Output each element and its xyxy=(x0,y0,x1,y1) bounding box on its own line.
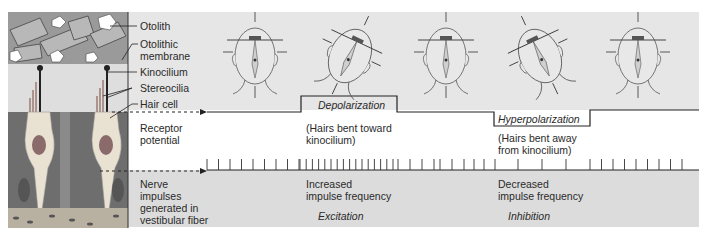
receptor-arrowhead-icon xyxy=(200,109,207,115)
decreased-frequency-label: Decreased impulse frequency xyxy=(498,178,583,202)
head-figure-5 xyxy=(606,12,670,98)
depolarization-title: Depolarization xyxy=(318,99,385,111)
impulse-ticks xyxy=(207,159,682,170)
head-figure-2 xyxy=(303,3,397,108)
increased-frequency-label: Increased impulse frequency xyxy=(306,178,391,202)
label-hair-cell: Hair cell xyxy=(140,98,178,110)
head-figure-1 xyxy=(223,12,287,98)
label-otolith: Otolith xyxy=(140,20,170,32)
nerve-arrowhead-icon xyxy=(200,168,207,174)
excitation-label: Excitation xyxy=(318,210,364,222)
head-figure-3 xyxy=(414,12,478,98)
hyperpolarization-note: (Hairs bent away from kinocilium) xyxy=(498,132,577,156)
hair-cell-illustration xyxy=(8,12,128,228)
hyperpolarization-title: Hyperpolarization xyxy=(498,113,580,125)
nerve-impulses-label: Nerve impulses generated in vestibular f… xyxy=(140,178,208,226)
receptor-potential-trace xyxy=(207,96,699,126)
inhibition-label: Inhibition xyxy=(508,210,550,222)
label-otolithic-membrane: Otolithic membrane xyxy=(140,38,210,62)
label-kinocilium: Kinocilium xyxy=(140,66,188,78)
label-stereocilia: Stereocilia xyxy=(140,82,189,94)
diagram-canvas xyxy=(0,0,724,240)
head-figures xyxy=(223,3,670,108)
head-figure-4 xyxy=(492,3,586,108)
depolarization-note: (Hairs bent toward kinocilium) xyxy=(306,122,392,146)
receptor-potential-label: Receptor potential xyxy=(140,122,183,146)
